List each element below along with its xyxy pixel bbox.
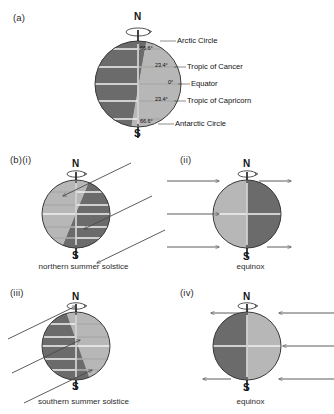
panel-b-iv: (iv) N S [167, 285, 334, 414]
panel-a: (a) N S [0, 0, 334, 150]
panel-b-iii-caption: southern summer solstice [0, 397, 167, 406]
panel-a-latitude-arctic-circle: Arctic Circle [177, 36, 218, 45]
panel-b-i: (b)(i) N S [0, 150, 167, 285]
panel-a-latitude-equator: Equator [191, 79, 218, 88]
panel-a-angle-equator: 0° [168, 79, 173, 85]
panel-a-angle-capricorn: 23.4° [155, 96, 168, 102]
panel-b-iii: (iii) N S [0, 285, 167, 414]
panel-a-angle-cancer: 23.4° [155, 62, 168, 68]
panel-a-latitude-tropic-of-capricorn: Tropic of Capricorn [187, 96, 251, 105]
panel-b-iii-svg [0, 285, 167, 414]
panel-a-globe-svg [0, 0, 334, 150]
panel-b-ii: (ii) N S [167, 150, 334, 285]
panel-b-iv-svg [167, 285, 334, 414]
panel-b-ii-caption: equinox [167, 262, 334, 271]
panel-b-i-caption: northern summer solstice [0, 262, 167, 271]
panel-a-angle-arctic: 66.6° [140, 45, 153, 51]
panel-a-latitude-tropic-of-cancer: Tropic of Cancer [187, 62, 243, 71]
panel-a-latitude-antarctic-circle: Antarctic Circle [175, 119, 226, 128]
panel-a-angle-antarctic: 66.6° [140, 118, 153, 124]
panel-b-iv-caption: equinox [167, 397, 334, 406]
